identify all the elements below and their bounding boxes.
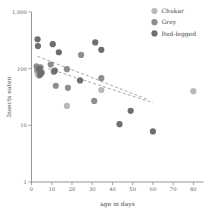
data-point-red-legged [150,128,156,134]
data-point-red-legged [39,70,45,76]
data-point-red-legged [116,121,122,127]
x-tick-label: 80 [190,186,197,192]
x-tick-label: 50 [129,186,136,192]
legend-label-chukar: Chukar [162,7,185,14]
data-point-chukar [190,88,196,94]
data-point-red-legged [77,77,83,83]
data-point-red-legged [34,36,40,42]
chart-canvas: 1101001,000 01020304050607080 ChukarGrey… [0,0,210,215]
legend-label-red-legged: Red-legged [162,30,197,38]
x-tick-label: 20 [69,186,76,192]
lower-trend [49,69,153,103]
legend-swatch-red-legged [151,30,157,36]
data-point-red-legged [35,43,41,49]
y-tick-label: 10 [20,122,27,128]
data-point-red-legged [50,41,56,47]
y-tick-label: 100 [17,66,27,72]
data-point-grey [65,85,71,91]
x-tick-label: 30 [89,186,96,192]
x-tick-label: 0 [30,186,33,192]
y-tick-label: 1 [24,179,27,185]
data-point-red-legged [56,49,62,55]
data-point-red-legged [52,68,58,74]
legend-label-grey: Grey [162,18,177,26]
data-point-grey [91,98,97,104]
axes-group [32,12,204,182]
data-point-grey [98,75,104,81]
data-points [33,36,196,134]
x-tick-label: 70 [170,186,177,192]
legend: ChukarGreyRed-legged [151,7,196,37]
legend-swatch-chukar [151,8,157,14]
x-tick-label: 60 [150,186,157,192]
x-tick-label: 10 [48,186,55,192]
y-axis-ticks: 1101001,000 [12,9,31,185]
data-point-grey [64,66,70,72]
x-axis-ticks: 01020304050607080 [30,182,197,192]
data-point-grey [53,83,59,89]
x-tick-label: 40 [109,186,116,192]
upper-trend [38,56,147,99]
data-point-chukar [64,103,70,109]
data-point-grey [78,52,84,58]
trend-lines [38,56,153,102]
x-axis-title: age in days [100,200,134,208]
data-point-red-legged [92,39,98,45]
data-point-red-legged [128,108,134,114]
y-axis-title: Insects eaten [5,77,12,118]
legend-swatch-grey [151,19,157,25]
y-tick-label: 1,000 [12,9,27,15]
data-point-chukar [98,87,104,93]
data-point-red-legged [98,47,104,53]
scatter-chart: 1101001,000 01020304050607080 ChukarGrey… [0,0,210,215]
data-point-grey [48,61,54,67]
